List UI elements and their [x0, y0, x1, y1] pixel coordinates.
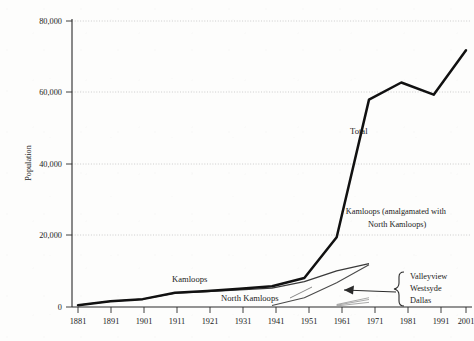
y-tick-labels: 80,000 60,000 40,000 20,000 0	[39, 17, 62, 312]
series-group	[78, 50, 466, 306]
x-tick-label-1931: 1931	[235, 317, 252, 326]
x-tick-label-1891: 1891	[103, 317, 120, 326]
x-tick-label-2001: 2001	[458, 317, 474, 326]
x-tick-label-1921: 1921	[202, 317, 219, 326]
x-tick-label-1961: 1961	[334, 317, 351, 326]
series-line-valleyview	[337, 298, 369, 305]
chart-svg: 80,000 60,000 40,000 20,000 0 Population	[0, 0, 474, 341]
population-line-chart: 80,000 60,000 40,000 20,000 0 Population	[0, 0, 474, 341]
curly-brace-icon	[394, 272, 404, 306]
amalgamation-note-line2: North Kamloops)	[368, 220, 427, 229]
x-tick-label-1991: 1991	[433, 317, 450, 326]
y-ticks	[66, 21, 72, 307]
north-kamloops-leader	[290, 287, 312, 298]
x-tick-label-1951: 1951	[301, 317, 318, 326]
x-tick-label-1941: 1941	[268, 317, 285, 326]
x-ticks	[78, 307, 466, 313]
amalgamation-note-line1: · Kamloops (amalgamated with	[341, 207, 447, 216]
y-tick-label-80000: 80,000	[39, 17, 62, 26]
y-tick-label-40000: 40,000	[39, 160, 62, 169]
series-line-total	[78, 50, 466, 305]
y-axis-title: Population	[24, 145, 33, 180]
series-label-north-kamloops: North Kamloops	[221, 293, 279, 303]
x-tick-label-1981: 1981	[400, 317, 417, 326]
brace-label-westsyde: Westsyde	[410, 284, 442, 293]
series-label-total: Total	[350, 126, 368, 136]
gridlines	[72, 21, 470, 235]
x-tick-label-1901: 1901	[136, 317, 153, 326]
series-label-kamloops: Kamloops	[172, 274, 208, 284]
brace-label-dallas: Dallas	[410, 296, 431, 305]
amalgamation-annotation: · Kamloops (amalgamated with North Kamlo…	[341, 207, 447, 229]
x-tick-label-1971: 1971	[367, 317, 384, 326]
y-tick-label-60000: 60,000	[39, 88, 62, 97]
x-tick-label-1881: 1881	[70, 317, 87, 326]
y-tick-label-0: 0	[58, 303, 62, 312]
x-tick-label-1911: 1911	[169, 317, 185, 326]
y-tick-label-20000: 20,000	[39, 231, 62, 240]
x-tick-labels: 1881 1891 1901 1911 1921 1931 1941 1951 …	[70, 317, 474, 326]
brace-label-valleyview: Valleyview	[410, 272, 447, 281]
suburb-arrow-head-icon	[344, 286, 354, 295]
